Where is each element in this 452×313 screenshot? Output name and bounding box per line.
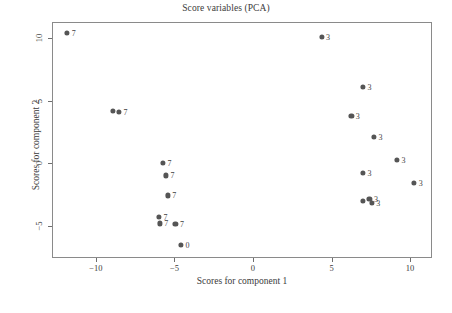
data-point-label: 3 — [419, 178, 423, 187]
x-axis-tick-label: 5 — [329, 263, 333, 273]
y-axis-tick-label: 10 — [34, 31, 44, 45]
data-point-label: 3 — [368, 83, 372, 92]
data-point-label: 0 — [185, 241, 189, 250]
data-point — [349, 113, 354, 118]
plot-area: 777777770333333333 — [52, 22, 432, 258]
x-axis-tick — [96, 258, 97, 262]
x-axis-tick — [410, 258, 411, 262]
data-point — [163, 173, 168, 178]
x-axis-tick — [332, 258, 333, 262]
data-point — [157, 221, 162, 226]
data-point-label: 3 — [401, 155, 405, 164]
data-point — [412, 180, 417, 185]
data-point-label: 3 — [379, 132, 383, 141]
data-point-label: 7 — [167, 158, 171, 167]
x-axis-tick — [174, 258, 175, 262]
data-point — [156, 214, 161, 219]
x-axis-tick-label: −10 — [89, 263, 102, 273]
data-point-label: 7 — [72, 28, 76, 37]
x-axis-label: Scores for component 1 — [52, 276, 432, 286]
data-point — [110, 108, 115, 113]
data-point — [372, 134, 377, 139]
data-point-label: 7 — [164, 219, 168, 228]
pca-scatter-figure: Score variables (PCA) 777777770333333333… — [0, 0, 452, 313]
y-axis-tick — [48, 163, 52, 164]
page-title: Score variables (PCA) — [0, 3, 452, 13]
data-point — [369, 200, 374, 205]
data-point-label: 7 — [171, 171, 175, 180]
data-point-label: 7 — [123, 107, 127, 116]
y-axis-label: Scores for component 2 — [31, 65, 41, 225]
data-point — [361, 85, 366, 90]
data-points-layer: 777777770333333333 — [53, 23, 431, 257]
data-point-label: 7 — [172, 191, 176, 200]
data-point-label: 3 — [368, 168, 372, 177]
data-point — [361, 198, 366, 203]
y-axis-tick — [48, 226, 52, 227]
x-axis-tick-label: −5 — [170, 263, 179, 273]
x-axis-tick — [253, 258, 254, 262]
x-axis-tick-label: 10 — [406, 263, 415, 273]
y-axis-tick — [48, 101, 52, 102]
data-point — [361, 170, 366, 175]
data-point-label: 3 — [356, 112, 360, 121]
data-point-label: 3 — [376, 198, 380, 207]
data-point — [178, 243, 183, 248]
data-point-label: 7 — [180, 220, 184, 229]
x-axis-tick-label: 0 — [251, 263, 255, 273]
data-point — [173, 221, 178, 226]
data-point — [394, 157, 399, 162]
data-point-label: 3 — [326, 32, 330, 41]
data-point — [319, 34, 324, 39]
data-point — [160, 160, 165, 165]
y-axis-tick — [48, 38, 52, 39]
data-point — [165, 193, 170, 198]
data-point — [116, 109, 121, 114]
data-point — [65, 30, 70, 35]
